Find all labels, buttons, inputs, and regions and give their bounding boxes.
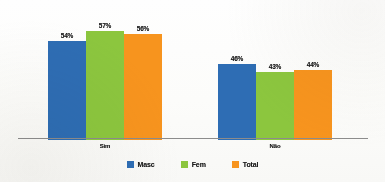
bar-sim-total[interactable]: [124, 34, 162, 140]
bar-slot-sim-total: 56%: [124, 28, 162, 140]
bar-value-label: 43%: [269, 63, 281, 70]
legend-swatch-icon: [127, 161, 134, 168]
legend-swatch-icon: [232, 161, 239, 168]
bar-slot-nao-total: 44%: [294, 28, 332, 140]
bar-group-sim: 54% 57% 56%: [48, 28, 162, 140]
legend-item-label: Fem: [192, 161, 206, 168]
bar-value-label: 56%: [137, 25, 149, 32]
chart-legend: Masc Fem Total: [0, 161, 385, 168]
legend-item-label: Masc: [138, 161, 155, 168]
bar-nao-fem[interactable]: [256, 72, 294, 140]
legend-item-total[interactable]: Total: [232, 161, 259, 168]
bar-value-label: 54%: [61, 32, 73, 39]
category-label-sim: Sim: [48, 143, 162, 149]
bar-group-nao: 46% 43% 44%: [218, 28, 332, 140]
bar-slot-nao-fem: 43%: [256, 28, 294, 140]
bar-sim-masc[interactable]: [48, 41, 86, 140]
bar-nao-total[interactable]: [294, 70, 332, 140]
plot-area: 54% 57% 56% 46% 43% 44%: [0, 0, 385, 140]
category-label-nao: Não: [218, 143, 332, 149]
bar-nao-masc[interactable]: [218, 64, 256, 140]
legend-item-fem[interactable]: Fem: [181, 161, 206, 168]
bar-value-label: 46%: [231, 55, 243, 62]
bar-slot-sim-masc: 54%: [48, 28, 86, 140]
bar-value-label: 57%: [99, 22, 111, 29]
legend-item-masc[interactable]: Masc: [127, 161, 155, 168]
bar-chart: 54% 57% 56% 46% 43% 44%: [0, 0, 385, 182]
bar-slot-nao-masc: 46%: [218, 28, 256, 140]
legend-item-label: Total: [243, 161, 259, 168]
bar-value-label: 44%: [307, 61, 319, 68]
x-axis-line: [18, 138, 368, 139]
legend-swatch-icon: [181, 161, 188, 168]
bar-sim-fem[interactable]: [86, 31, 124, 140]
bar-slot-sim-fem: 57%: [86, 28, 124, 140]
